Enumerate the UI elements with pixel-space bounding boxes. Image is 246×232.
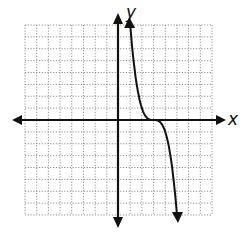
curve-bottom-arrow (172, 212, 183, 223)
x-axis-label: x (228, 109, 238, 129)
graph (0, 0, 246, 232)
y-axis-top-arrow (113, 13, 123, 24)
x-axis-left-arrow (12, 115, 22, 125)
x-axis-right-arrow (216, 115, 226, 125)
y-axis-label: y (126, 2, 136, 22)
y-axis-bottom-arrow (113, 217, 123, 228)
